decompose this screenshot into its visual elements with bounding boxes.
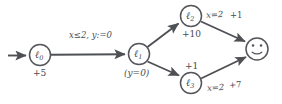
node-l2-cost-label: +10 bbox=[182, 30, 201, 39]
automaton-diagram: ℓ0 ℓ1 ℓ2 ℓ3 +5 (y=0) +10 +1 x≤2, y:=0 x=… bbox=[0, 0, 282, 104]
smiley-left-eye-icon bbox=[252, 44, 255, 47]
edge-l0-to-l1 bbox=[51, 54, 125, 55]
node-goal bbox=[246, 38, 268, 60]
edge-l1-to-l2 bbox=[148, 24, 179, 48]
edge-l3-goal-weight-label: +7 bbox=[229, 80, 242, 89]
edge-l2-goal-guard-label: x=2 bbox=[206, 10, 224, 19]
edge-l3-goal-guard-label: x=2 bbox=[207, 83, 225, 93]
edge-l2-goal-weight-label: +1 bbox=[230, 11, 243, 20]
node-l0-cost-label: +5 bbox=[33, 69, 46, 78]
smiley-right-eye-icon bbox=[260, 44, 263, 47]
node-l1-invariant-label: (y=0) bbox=[124, 69, 149, 78]
node-l3-cost-label: +1 bbox=[185, 62, 198, 71]
node-l1-label: ℓ1 bbox=[134, 49, 142, 59]
edge-l2-to-goal bbox=[201, 22, 245, 42]
edge-l3-to-goal bbox=[201, 57, 246, 79]
node-l0-label: ℓ0 bbox=[35, 50, 43, 60]
edge-l1-to-l3 bbox=[148, 62, 180, 76]
node-l3-label: ℓ3 bbox=[186, 78, 194, 88]
edge-l0-l1-guard-label: x≤2, y:=0 bbox=[69, 31, 112, 40]
node-l2-label: ℓ2 bbox=[186, 11, 194, 21]
